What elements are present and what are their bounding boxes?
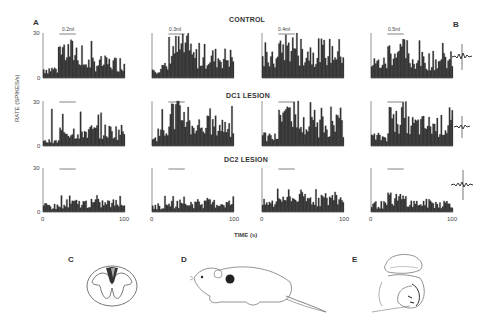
histogram-panel: [43, 33, 125, 78]
rat-illustration: [190, 262, 330, 312]
histogram-panel: [371, 101, 453, 146]
spike-waveform-icon-dc2: [450, 170, 476, 200]
histogram-panel: [262, 33, 344, 78]
histogram-panel: [262, 168, 344, 212]
histogram-panel: [43, 168, 125, 212]
spinal-cord-section-illustration: [84, 264, 140, 308]
histogram-panel: [152, 101, 234, 146]
histogram-panel: [371, 33, 453, 78]
histogram-panel: [262, 101, 344, 146]
histogram-panel: [152, 168, 234, 212]
histogram-panel: [43, 101, 125, 146]
spike-waveform-icon-control: [450, 44, 474, 70]
histogram-panel: [152, 33, 234, 78]
spike-waveform-icon-dc1: [450, 114, 474, 140]
brain-illustration: [368, 246, 438, 316]
histogram-panel: [371, 168, 453, 212]
